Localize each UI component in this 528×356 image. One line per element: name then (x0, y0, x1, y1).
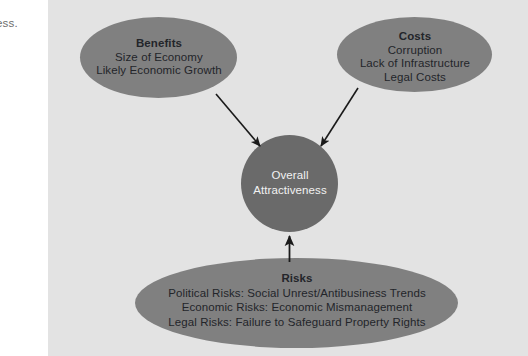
diagram-canvas (0, 0, 528, 356)
figure-root: ess. Benefits Size of Economy Likely Eco… (0, 0, 528, 356)
node-benefits[interactable] (80, 17, 237, 98)
edge-benefits-to-center (216, 94, 260, 146)
node-risks[interactable] (135, 258, 458, 348)
edge-costs-to-center (321, 88, 358, 146)
node-costs[interactable] (337, 17, 492, 92)
node-overall-attractiveness[interactable] (241, 135, 338, 232)
